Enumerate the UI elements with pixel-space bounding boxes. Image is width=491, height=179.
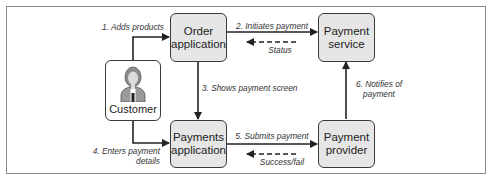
node-order-application: Order application <box>170 13 227 62</box>
label-success-fail: Success/fail <box>247 157 317 167</box>
node-customer: Customer <box>105 60 161 121</box>
label-status: Status <box>255 45 305 55</box>
node-payment-provider: Payment provider <box>318 120 375 168</box>
label-shows-payment-screen: 3. Shows payment screen <box>202 83 322 93</box>
edge-enters-payment-details <box>133 121 169 143</box>
edge-adds-products <box>133 37 169 60</box>
label-notifies-payment: 6. Notifies of payment <box>349 79 409 99</box>
node-payments-application: Payments application <box>170 120 227 168</box>
node-customer-label: Customer <box>109 103 157 116</box>
label-adds-products: 1. Adds products <box>90 22 164 32</box>
label-submits-payment: 5. Submits payment <box>228 131 316 141</box>
label-initiates-payment: 2. Initiates payment <box>228 21 316 31</box>
node-payment-service: Payment service <box>318 13 375 62</box>
label-enters-payment-details: 4. Enters payment details <box>80 146 160 166</box>
person-icon <box>119 66 147 102</box>
